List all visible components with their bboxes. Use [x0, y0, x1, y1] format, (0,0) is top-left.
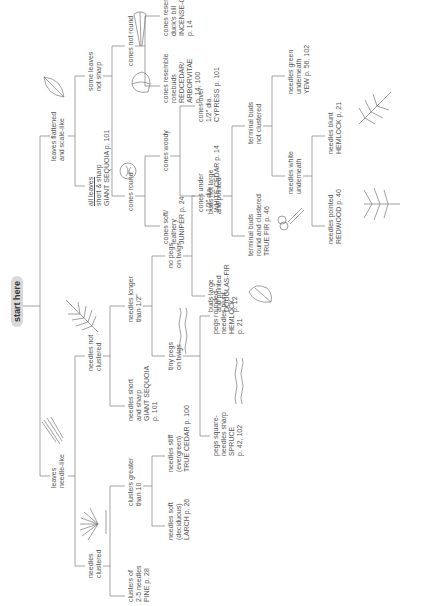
node-giant-sequoia-needles: needles shortand sharpGIANT SEQUOIAp. 10… [127, 366, 159, 421]
bud-sketch-icon [245, 280, 279, 306]
start-here-label: start here [11, 276, 23, 327]
node-incense-cedar: cones resembleduck's billINCENSE-CEDARp.… [162, 0, 194, 36]
clustered-buds-sketch-icon [276, 204, 308, 234]
node-redcedar-arborvitae: cones resemblerosebudsREDCEDAR/ARBORVITA… [162, 54, 202, 103]
needle-leaf-sketch-icon [40, 416, 68, 446]
node-redwood: needles pointedREDWOOD p. 40 [327, 189, 343, 244]
node-juniper: cones soft/leatheryJUNIPER p. 24 [162, 197, 186, 244]
node-needles-white: needles whiteunderneath [287, 151, 303, 194]
hemlock-sprig-sketch-icon [355, 88, 399, 128]
node-clusters-greater-10: clusters greaterthan 10 [127, 458, 143, 506]
node-white-cedar: cones under1/2" dia.WHITE-CEDAR p. 14 [197, 145, 221, 212]
feathery-branch-sketch-icon [62, 296, 106, 336]
node-no-pegs: no pegson twigs [167, 242, 183, 268]
node-some-leaves-not-sharp: some leavesnot sharp [87, 52, 103, 91]
scale-leaf-sketch-icon [40, 73, 72, 101]
round-cone-sketch-icon [118, 161, 142, 181]
node-needles-longer: needles longerthan 1/2" [127, 276, 143, 322]
node-terminal-buds-not-clustered: terminal budsnot clustered [247, 102, 263, 144]
duckbill-cone-sketch-icon [130, 8, 156, 48]
key-diagram: start here leavesneedle-like leaves flat… [0, 0, 426, 606]
node-larch: needles soft(deciduous)LARCH p. 26 [167, 499, 191, 540]
node-needles-not-clustered: needles notclustered [87, 335, 103, 371]
node-leaves-needle-like: leavesneedle-like [50, 454, 66, 488]
node-spruce: pegs square-needles sharpSPRUCEp. 42, 10… [212, 412, 244, 456]
needle-cluster-sketch-icon [78, 504, 116, 544]
node-hemlock-blunt: needles bluntHEMLOCK p. 21 [327, 102, 343, 154]
node-douglas-fir: buds largeand pointedDOUGLAS-FIRp. 12 [207, 264, 239, 312]
node-cones-woody: cones woody [162, 130, 170, 171]
node-needles-clustered: needlesclustered [87, 550, 103, 578]
node-true-cedar: needles stiff(evergreen)TRUE CEDAR p. 10… [167, 405, 191, 472]
rosebud-cone-sketch-icon [128, 66, 158, 96]
peg-twig-sketch-icon [176, 306, 196, 356]
node-giant-sequoia-leaves: all leavesshort & sharpGIANT SEQUOIA p. … [87, 130, 111, 206]
peg-twig-sketch-icon [232, 356, 252, 406]
redwood-sprig-sketch-icon [360, 184, 408, 224]
node-true-fir: terminal budsround and clusteredTRUE FIR… [247, 194, 271, 256]
node-pine: clusters of2-5 needlesPINE p. 28 [127, 565, 151, 602]
node-yew: needles greenunderneathYEW p. 56, 102 [287, 45, 311, 94]
node-leaves-scale-like: leaves flattenedand scale-like [50, 112, 66, 161]
